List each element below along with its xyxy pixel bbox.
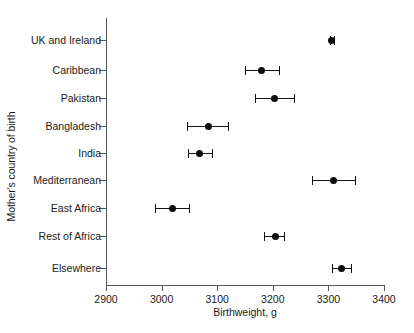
x-axis-tick-label: 3400 (362, 293, 406, 305)
error-bar-cap-low (255, 94, 256, 103)
error-bar-cap-low (332, 264, 333, 273)
error-bar-cap-low (155, 204, 156, 213)
y-axis-category-label: Mediterranean (33, 175, 101, 186)
y-axis-category-label: Elsewhere (52, 263, 101, 274)
error-bar-cap-high (355, 176, 356, 185)
y-axis-category-label: East Africa (51, 203, 101, 214)
y-axis-category-label: Bangladesh (46, 121, 101, 132)
y-axis-category-label: Caribbean (53, 65, 101, 76)
error-bar-cap-high (294, 94, 295, 103)
x-axis-tick (273, 285, 274, 291)
data-point-marker (272, 233, 279, 240)
data-point-marker (330, 177, 337, 184)
error-bar-cap-low (188, 149, 189, 158)
x-axis-tick (217, 285, 218, 291)
error-bar-cap-low (264, 232, 265, 241)
error-bar-cap-high (228, 122, 229, 131)
x-axis-tick-label: 3200 (251, 293, 295, 305)
x-axis-tick (328, 285, 329, 291)
x-axis-tick (162, 285, 163, 291)
birthweight-forest-chart: Mother's country of birth 29003000310032… (0, 0, 414, 333)
x-axis-tick (384, 285, 385, 291)
x-axis-tick (106, 285, 107, 291)
data-point-marker (271, 95, 278, 102)
x-axis-tick-label: 3000 (140, 293, 184, 305)
y-axis-category-label: Pakistan (61, 93, 101, 104)
error-bar-cap-low (187, 122, 188, 131)
error-bar-cap-low (312, 176, 313, 185)
x-axis-title: Birthweight, g (106, 306, 384, 318)
y-axis-title: Mother's country of birth (0, 0, 22, 333)
error-bar-cap-high (279, 66, 280, 75)
data-point-marker (258, 67, 265, 74)
data-point-marker (169, 205, 176, 212)
error-bar-cap-high (351, 264, 352, 273)
error-bar-cap-low (245, 66, 246, 75)
error-bar-cap-high (284, 232, 285, 241)
plot-area: 290030003100320033003400 (106, 18, 384, 285)
data-point-marker (205, 123, 212, 130)
error-bar-cap-high (189, 204, 190, 213)
data-point-marker (196, 150, 203, 157)
y-axis-spine (106, 18, 107, 285)
error-bar-cap-high (212, 149, 213, 158)
x-axis-tick-label: 3300 (306, 293, 350, 305)
data-point-marker (338, 265, 345, 272)
y-axis-category-label: UK and Ireland (31, 35, 101, 46)
y-axis-category-label: India (78, 148, 101, 159)
y-axis-category-label: Rest of Africa (39, 231, 101, 242)
x-axis-spine (106, 285, 384, 286)
x-axis-tick-label: 2900 (84, 293, 128, 305)
x-axis-tick-label: 3100 (195, 293, 239, 305)
